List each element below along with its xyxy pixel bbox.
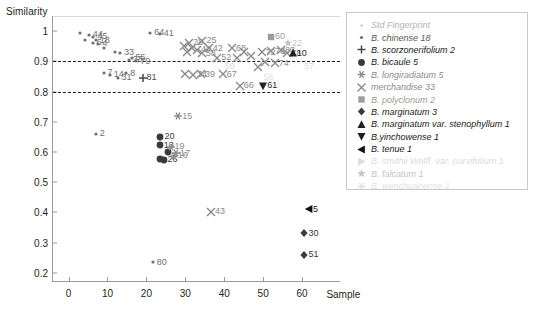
legend-item[interactable]: B. scorzonerifolium 2: [353, 44, 523, 56]
data-point-label: 80: [157, 258, 167, 267]
y-tick-mark: [53, 182, 57, 183]
data-point: 80: [146, 256, 159, 269]
legend-item-label: B.yinchowense 1: [369, 132, 439, 142]
tiny-dot-icon: [353, 19, 369, 31]
y-tick-mark: [53, 31, 57, 32]
data-point-label: 61: [267, 81, 277, 90]
data-point: 15: [172, 110, 185, 123]
x-tick-mark: [263, 277, 264, 281]
faint-data-label: 57: [304, 61, 314, 70]
legend-item[interactable]: merchandise 33: [353, 81, 523, 93]
faint-data-label: 59: [225, 61, 235, 70]
data-point-label: 66: [244, 81, 254, 90]
legend-item-label: Std Fingerprint: [369, 20, 430, 30]
x-tick-label: 50: [258, 281, 269, 299]
data-point-label: 81: [147, 73, 157, 82]
legend-item[interactable]: Std Fingerprint: [353, 19, 523, 31]
y-tick-label: 0.8: [34, 86, 53, 97]
legend-item-label: B. tenue 1: [369, 144, 412, 154]
x-tick-mark: [224, 277, 225, 281]
data-point-label: 39: [205, 69, 215, 78]
data-point: [180, 46, 193, 59]
data-point-label: 67: [227, 69, 237, 78]
data-point-label: 51: [308, 250, 318, 259]
y-tick-mark: [53, 152, 57, 153]
legend-item-label: B. longiradiatum 5: [369, 70, 444, 80]
y-tick-label: 0.7: [34, 116, 53, 127]
plus-icon: [353, 44, 369, 56]
legend-item-label: B. bicaule 5: [369, 57, 418, 67]
plot-area: 0.20.30.40.50.60.70.80.91 0102030405060 …: [52, 16, 340, 282]
y-tick-label: 0.9: [34, 56, 53, 67]
dot-icon: [353, 32, 369, 44]
data-point: 8: [120, 67, 133, 80]
legend-item[interactable]: B. marginatum 3: [353, 106, 523, 118]
y-tick-label: 1: [42, 26, 53, 37]
legend-item[interactable]: B. smithii Wolff. var. parvifolium 1: [353, 155, 523, 167]
data-point: 81: [136, 71, 149, 84]
legend-item-label: B. falcatum 1: [369, 169, 424, 179]
y-tick-label: 0.2: [34, 267, 53, 278]
data-point: 41: [153, 27, 166, 40]
x-tick-mark: [185, 277, 186, 281]
x-tick-label: 40: [219, 281, 230, 299]
data-point-label: 15: [182, 112, 192, 121]
y-axis-title: Similarity: [6, 6, 48, 17]
y-tick-mark: [53, 242, 57, 243]
plot-top-border: [53, 16, 340, 17]
data-point: 74: [268, 57, 281, 70]
scatter-plot-figure: Similarity 0.20.30.40.50.60.70.80.91 010…: [0, 0, 533, 313]
legend-item[interactable]: B. chinense 18: [353, 31, 523, 43]
legend: Std FingerprintB. chinense 18B. scorzone…: [346, 12, 528, 190]
data-point: 66: [233, 79, 246, 92]
reference-line: [53, 61, 340, 62]
cross-icon: [353, 81, 369, 93]
y-tick-label: 0.6: [34, 147, 53, 158]
legend-item[interactable]: B.yinchowense 1: [353, 131, 523, 143]
x-tick-label: 10: [102, 281, 113, 299]
legend-item[interactable]: B. tenue 1: [353, 143, 523, 155]
x-tick-mark: [302, 277, 303, 281]
data-point: 79: [130, 55, 143, 68]
asterisk-icon: [353, 69, 369, 81]
data-point-label: 30: [308, 228, 318, 237]
y-tick-label: 0.3: [34, 237, 53, 248]
faint-data-label: 56: [264, 73, 274, 82]
data-point: 5: [303, 203, 316, 216]
data-point-label: 79: [140, 57, 150, 66]
legend-item-label: B. smithii Wolff. var. parvifolium 1: [369, 156, 504, 166]
x-tick-mark: [107, 277, 108, 281]
data-point: 52: [211, 51, 224, 64]
legend-item[interactable]: B. wenchuanense 1: [353, 180, 523, 190]
data-point: 22: [282, 37, 295, 50]
data-point: 43: [205, 205, 218, 218]
x-tick-label: 30: [180, 281, 191, 299]
data-point-label: 8: [130, 69, 135, 78]
legend-item[interactable]: B. longiradiatum 5: [353, 69, 523, 81]
legend-item[interactable]: B. polyclonum 2: [353, 93, 523, 105]
legend-item[interactable]: B. marginatum var. stenophyllum 1: [353, 118, 523, 130]
square-icon: [353, 94, 369, 106]
legend-item[interactable]: B. bicaule 5: [353, 56, 523, 68]
star-icon: [353, 168, 369, 180]
triangle-right-icon: [353, 155, 369, 167]
legend-item[interactable]: B. falcatum 1: [353, 168, 523, 180]
y-tick-mark: [53, 121, 57, 122]
data-point: 16: [167, 149, 180, 162]
data-point-label: 22: [292, 39, 302, 48]
x-tick-label: 0: [66, 281, 72, 299]
data-point: 39: [194, 68, 207, 81]
data-point: 51: [298, 248, 311, 261]
legend-item-label: B. wenchuanense 1: [369, 181, 450, 190]
x-tick-label: 20: [141, 281, 152, 299]
legend-item-label: B. scorzonerifolium 2: [369, 45, 455, 55]
diamond-icon: [353, 106, 369, 118]
triangle-down-icon: [353, 131, 369, 143]
triangle-up-icon: [353, 118, 369, 130]
data-point: 60: [264, 30, 277, 43]
y-tick-mark: [53, 272, 57, 273]
x-axis-title: Sample: [326, 289, 360, 300]
legend-item-label: B. marginatum 3: [369, 107, 437, 117]
legend-item-label: B. marginatum var. stenophyllum 1: [369, 119, 510, 129]
data-point-label: 43: [215, 207, 225, 216]
